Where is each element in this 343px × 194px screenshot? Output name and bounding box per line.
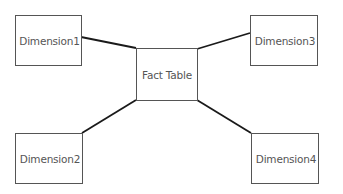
edge-fact-dim4: [197, 100, 251, 133]
dimension1-node: Dimension1: [15, 15, 82, 66]
dimension1-label: Dimension1: [19, 35, 80, 47]
dimension2-node: Dimension2: [15, 133, 83, 184]
fact-table-label: Fact Table: [142, 69, 192, 81]
dimension2-label: Dimension2: [20, 153, 81, 165]
fact-table-node: Fact Table: [136, 48, 198, 101]
edge-dim1-fact: [81, 37, 136, 48]
dimension3-label: Dimension3: [255, 35, 316, 47]
dimension4-node: Dimension4: [251, 133, 319, 184]
dimension4-label: Dimension4: [256, 153, 317, 165]
edge-fact-dim2: [82, 100, 136, 133]
edge-fact-dim3: [197, 33, 250, 49]
dimension3-node: Dimension3: [250, 15, 318, 66]
